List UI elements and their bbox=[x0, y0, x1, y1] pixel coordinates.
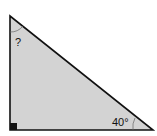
right-angle-marker bbox=[10, 123, 17, 130]
known-angle-label: 40° bbox=[112, 116, 129, 128]
right-triangle bbox=[10, 16, 153, 130]
unknown-angle-label: ? bbox=[15, 36, 21, 48]
triangle-diagram: ? 40° bbox=[0, 0, 157, 136]
